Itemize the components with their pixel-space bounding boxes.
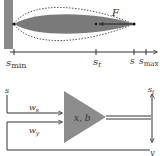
label-st: st [93,56,101,69]
s-point [132,22,135,25]
input-s-label: s [5,86,9,95]
label-smax: smax [139,56,158,68]
neuron-label: x, b [74,113,91,123]
weight-wy-label: wy [29,126,40,137]
wall [4,0,13,49]
anchor-point [12,22,15,25]
output-st-label: st [148,85,155,95]
st-point [95,23,97,25]
label-s: s [130,56,135,66]
weight-ws-label: ws [29,103,39,113]
diagram-canvas: F smin st s smax s ws wy x, b st y [0,0,160,156]
output-y-label: y [149,148,155,156]
label-smin: smin [6,57,26,70]
force-label: F [111,7,120,18]
